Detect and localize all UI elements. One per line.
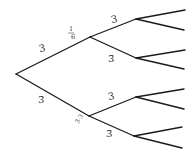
leaf-edge-3 [136, 50, 185, 58]
label-lower-lower: 3̄ [106, 128, 112, 139]
leaf-edge-7 [134, 127, 182, 136]
label-upper-mid-fraction-denominator: 6 [71, 33, 75, 41]
edge-root-lower [16, 74, 89, 116]
edge-root-upper [16, 37, 90, 74]
label-root-lower: 3̄ [38, 94, 44, 105]
leaf-edge-2 [136, 19, 184, 30]
label-lower-mid-mark: 3̄·3 [73, 113, 84, 125]
label-lower-upper: 3 [107, 90, 116, 102]
leaf-edge-8 [134, 136, 182, 148]
leaf-edge-4 [136, 58, 184, 69]
leaf-edge-1 [136, 10, 185, 19]
leaf-edge-6 [136, 97, 184, 109]
leaf-edge-5 [136, 89, 184, 97]
label-upper-upper: 3 [110, 13, 119, 25]
tree-diagram: 3 1 6 3 3̄ 3̄ 3̄·3 3 3̄ [0, 0, 194, 157]
label-root-upper: 3 [38, 42, 47, 54]
label-upper-lower: 3̄ [108, 53, 114, 64]
label-upper-mid-fraction-numerator: 1 [69, 25, 73, 33]
